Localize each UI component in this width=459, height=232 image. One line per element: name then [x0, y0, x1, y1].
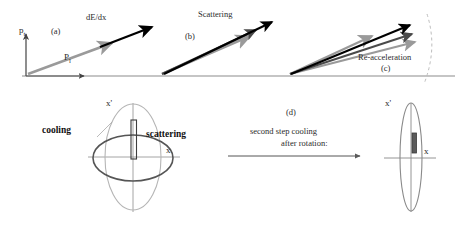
ionization-cooling-figure: pt Pl dE/dx (a) Scattering (b) Re-accele… [0, 0, 459, 232]
right-phase-axes [384, 103, 436, 212]
right-residual-bar [412, 133, 417, 153]
right-xprime-axis-label: x' [385, 99, 391, 108]
left-xprime-axis-label: x' [106, 99, 112, 108]
panel-d-tag: (d) [286, 108, 296, 117]
panel-b-vectors [162, 22, 272, 74]
panel-b-tag: (b) [185, 32, 195, 41]
scattering-label: scattering [146, 130, 186, 140]
panel-a-process-label: dE/dx [86, 13, 106, 22]
pl-axis-label: Pl [64, 53, 71, 65]
cooling-label: cooling [42, 126, 71, 136]
right-x-axis-label: x [424, 147, 429, 156]
constant-momentum-arc [424, 14, 432, 84]
cooling-leader-line [97, 122, 112, 137]
panel-a-tag: (a) [51, 27, 60, 36]
panel-a-vectors [28, 27, 152, 74]
panel-c-process-label: Re-acceleration [358, 53, 411, 62]
left-phase-axes [88, 103, 180, 212]
panel-b-process-label: Scattering [198, 10, 232, 19]
panel-d-line2: after rotation: [281, 139, 328, 148]
figure-canvas [0, 0, 459, 232]
panel-c-tag: (c) [381, 64, 390, 73]
pt-axis-label: pt [19, 26, 25, 38]
scattering-growth-bar [131, 120, 137, 159]
panel-d-line1: second step cooling [250, 127, 317, 136]
panel-c-vectors [290, 25, 415, 74]
left-x-axis-label: x [166, 146, 171, 155]
